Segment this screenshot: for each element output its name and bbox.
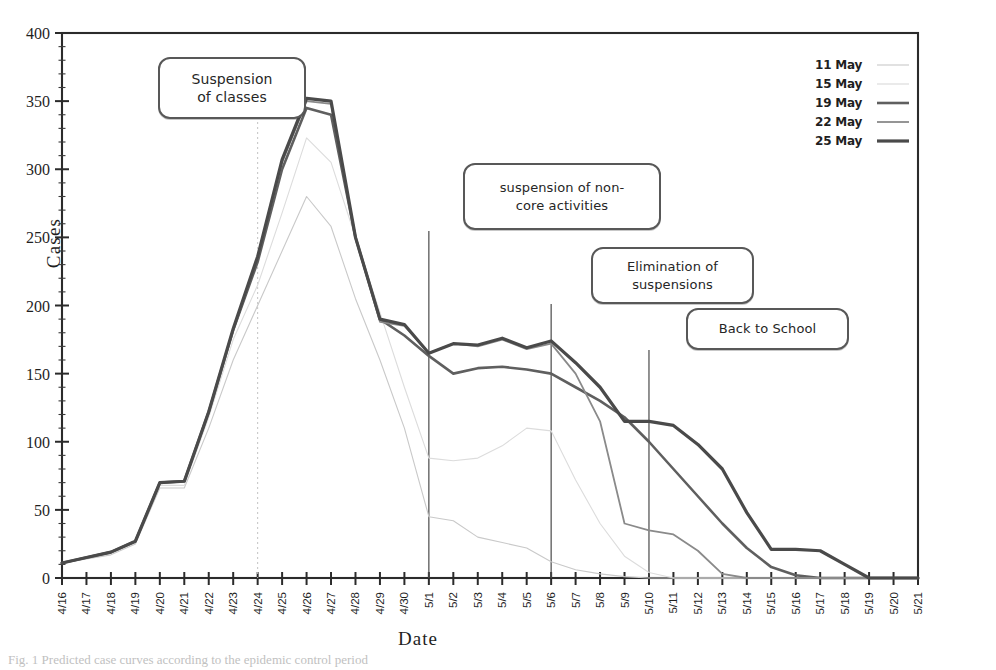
y-tick-label: 400 [26,25,50,42]
x-tick-label: 4/20 [154,592,166,614]
chart-legend: 11 May15 May19 May22 May25 May [815,55,911,150]
figure-caption: Fig. 1 Predicted case curves according t… [8,652,368,668]
legend-swatch-line [875,59,911,71]
y-tick-label: 100 [26,434,50,451]
y-tick-label: 300 [26,161,50,178]
x-tick-label: 5/15 [765,592,777,614]
legend-label: 19 May [815,96,867,110]
legend-swatch-line [875,135,911,147]
y-tick-label: 150 [26,366,50,383]
x-tick-label: 4/22 [203,592,215,614]
x-tick-label: 4/23 [227,592,239,614]
annotation-suspension-noncore: suspension of non- core activities [463,163,661,230]
annotation-line-1: suspension of non- [471,179,653,196]
annotation-elimination-of-suspensions: Elimination of suspensions [591,247,754,304]
legend-label: 22 May [815,115,867,129]
x-tick-label: 4/26 [301,592,313,614]
annotation-suspension-of-classes: Suspension of classes [158,57,306,119]
x-tick-label: 5/10 [643,592,655,614]
x-tick-label: 4/28 [349,592,361,614]
legend-label: 11 May [815,58,867,72]
x-tick-label: 5/7 [570,592,582,608]
x-tick-label: 5/20 [888,592,900,614]
x-tick-label: 5/18 [839,592,851,614]
legend-item-25-may: 25 May [815,131,911,150]
annotation-line-2: of classes [166,88,298,106]
x-tick-label: 5/2 [447,592,459,608]
legend-item-22-may: 22 May [815,112,911,131]
annotation-line-1: Back to School [694,320,841,337]
x-tick-label: 4/27 [325,592,337,614]
x-tick-label: 5/13 [716,592,728,614]
x-tick-label: 5/8 [594,592,606,608]
legend-swatch-line [875,97,911,109]
x-tick-label: 5/11 [667,592,679,614]
annotation-line-2: core activities [471,197,653,214]
y-axis-title: Cases [43,183,65,303]
x-tick-label: 4/24 [252,591,264,614]
legend-item-19-may: 19 May [815,93,911,112]
y-tick-label: 0 [42,570,50,587]
legend-label: 25 May [815,134,867,148]
x-tick-label: 4/18 [105,592,117,614]
y-tick-label: 350 [26,93,50,110]
annotation-line-1: Elimination of [599,258,746,275]
x-tick-label: 4/29 [374,592,386,614]
legend-swatch-line [875,116,911,128]
x-tick-label: 5/16 [790,592,802,614]
x-tick-label: 5/3 [472,592,484,608]
legend-item-11-may: 11 May [815,55,911,74]
x-tick-label: 4/21 [178,592,190,614]
x-tick-label: 5/21 [912,592,924,614]
legend-item-15-may: 15 May [815,74,911,93]
annotation-line-2: suspensions [599,276,746,293]
x-tick-label: 5/1 [423,592,435,608]
x-tick-label: 5/9 [619,592,631,608]
figure-container: 0501001502002503003504004/164/174/184/19… [0,0,996,670]
x-tick-label: 5/4 [496,591,508,608]
x-tick-label: 5/14 [741,591,753,614]
x-tick-label: 5/17 [814,592,826,614]
annotation-line-1: Suspension [166,70,298,88]
legend-swatch-line [875,78,911,90]
x-axis-title: Date [398,628,438,650]
x-tick-label: 5/6 [545,592,557,608]
annotation-back-to-school: Back to School [686,308,849,350]
x-tick-label: 5/12 [692,592,704,614]
x-tick-label: 4/25 [276,592,288,614]
x-tick-label: 4/30 [398,592,410,614]
x-tick-label: 4/19 [129,592,141,614]
x-tick-label: 5/5 [521,592,533,608]
series-line-11-may [62,197,918,579]
x-tick-label: 4/16 [56,592,68,614]
x-tick-label: 4/17 [80,592,92,614]
y-tick-label: 50 [34,502,50,519]
x-tick-label: 5/19 [863,592,875,614]
event-lines [258,57,649,578]
legend-label: 15 May [815,77,867,91]
